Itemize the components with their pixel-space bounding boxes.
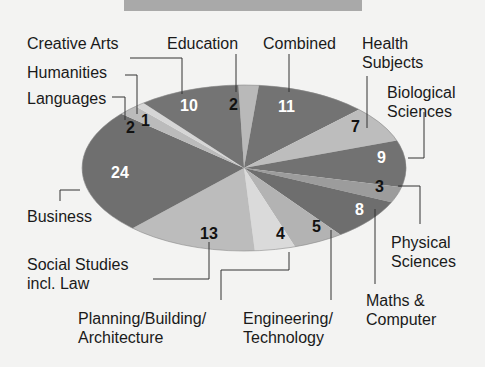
value-planning: 4 xyxy=(276,225,285,242)
label-education: Education xyxy=(167,35,238,52)
label-creative-arts: Creative Arts xyxy=(27,35,119,52)
label-biological-2: Sciences xyxy=(387,103,452,120)
label-health-2: Subjects xyxy=(362,54,423,71)
label-combined: Combined xyxy=(263,35,336,52)
label-planning-2: Architecture xyxy=(78,329,163,346)
label-business: Business xyxy=(27,208,92,225)
label-engineering-2: Technology xyxy=(243,329,324,346)
label-biological-1: Biological xyxy=(387,84,455,101)
label-social-1: Social Studies xyxy=(27,256,128,273)
label-physical-2: Sciences xyxy=(391,253,456,270)
value-health: 7 xyxy=(351,118,360,135)
value-languages: 2 xyxy=(126,119,135,136)
value-engineering: 5 xyxy=(312,218,321,235)
value-maths: 8 xyxy=(355,201,364,218)
label-social-2: incl. Law xyxy=(27,275,90,292)
label-languages: Languages xyxy=(27,90,106,107)
value-humanities: 1 xyxy=(141,112,150,129)
label-planning-1: Planning/Building/ xyxy=(78,310,207,327)
value-social: 13 xyxy=(200,225,218,242)
pie-slices xyxy=(82,85,406,251)
label-maths-2: Computer xyxy=(366,311,437,328)
label-humanities: Humanities xyxy=(27,64,107,81)
value-combined: 11 xyxy=(278,98,295,115)
label-physical-1: Physical xyxy=(391,234,451,251)
value-creative: 10 xyxy=(180,97,198,114)
value-physical: 3 xyxy=(375,178,384,195)
pie-chart: 2 11 7 9 3 8 5 4 13 24 2 1 10 Creative A… xyxy=(0,0,485,367)
value-education: 2 xyxy=(229,96,238,113)
label-health-1: Health xyxy=(362,35,408,52)
label-maths-1: Maths & xyxy=(366,292,425,309)
label-engineering-1: Engineering/ xyxy=(243,310,333,327)
value-business: 24 xyxy=(111,164,129,181)
value-biological: 9 xyxy=(377,149,386,166)
